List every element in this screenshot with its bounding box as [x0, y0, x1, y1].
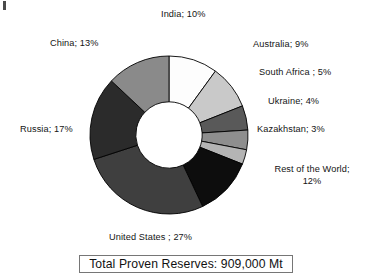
slice-label-rest-of-world-line1: Rest of the World;: [274, 164, 349, 174]
total-reserves-box: Total Proven Reserves: 909,000 Mt: [79, 255, 293, 273]
slice-label-ukraine: Ukraine; 4%: [268, 96, 319, 108]
slice-label-united-states: United States ; 27%: [109, 232, 192, 244]
slice-label-rest-of-world-line2: 12%: [303, 176, 322, 186]
donut-slice-united-states[interactable]: [94, 145, 203, 214]
slice-label-kazakhstan: Kazakhstan; 3%: [257, 124, 325, 136]
slice-label-australia: Australia; 9%: [253, 39, 308, 51]
slice-label-rest-of-world: Rest of the World; 12%: [258, 164, 366, 187]
donut-slice-group: [90, 56, 248, 214]
total-reserves-label: Total Proven Reserves: 909,000 Mt: [89, 257, 283, 271]
slice-label-china: China; 13%: [50, 38, 99, 50]
chart-figure: India; 10% Australia; 9% South Africa ; …: [0, 0, 375, 279]
slice-label-india: India; 10%: [161, 9, 205, 21]
slice-label-russia: Russia; 17%: [20, 124, 73, 136]
slice-label-south-africa: South Africa ; 5%: [259, 67, 331, 79]
